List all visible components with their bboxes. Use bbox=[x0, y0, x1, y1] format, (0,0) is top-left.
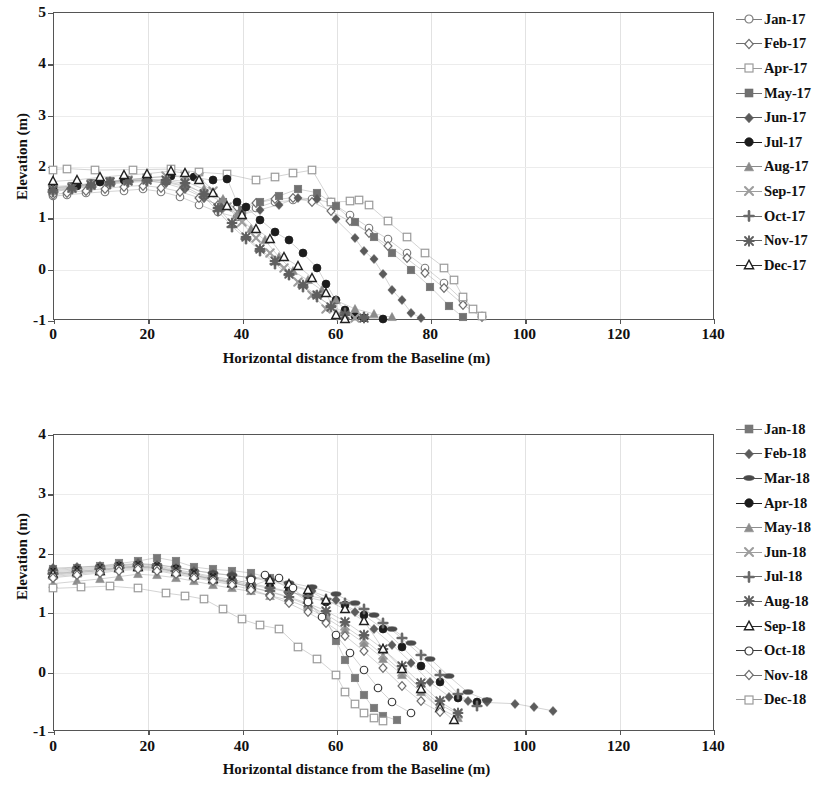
data-point-marker bbox=[302, 606, 314, 618]
data-point-marker bbox=[330, 200, 342, 212]
legend-item-oct-17[interactable]: Oct-17 bbox=[736, 204, 811, 229]
data-point-marker bbox=[387, 697, 399, 709]
legend-item-jan-18[interactable]: Jan-18 bbox=[736, 417, 811, 442]
data-point-marker bbox=[509, 698, 521, 710]
data-point-marker bbox=[71, 570, 83, 582]
legend-item-nov-18[interactable]: Nov-18 bbox=[736, 663, 811, 688]
data-point-marker bbox=[179, 167, 191, 179]
x-axis-tick-label: 0 bbox=[28, 738, 78, 754]
legend-item-label: Dec-18 bbox=[764, 691, 806, 708]
legend-item-label: Jan-17 bbox=[764, 11, 805, 28]
data-point-marker bbox=[321, 288, 333, 300]
data-point-marker bbox=[406, 707, 418, 719]
legend-item-jun-17[interactable]: Jun-17 bbox=[736, 105, 811, 130]
data-point-marker bbox=[368, 231, 380, 243]
x-axis-tick-label: 0 bbox=[28, 326, 78, 342]
legend-item-dec-18[interactable]: Dec-18 bbox=[736, 688, 811, 713]
data-point-marker bbox=[368, 254, 380, 266]
legend-item-jul-18[interactable]: Jul-18 bbox=[736, 565, 811, 590]
legend-marker-glyph bbox=[743, 136, 755, 148]
data-point-marker bbox=[47, 164, 59, 176]
data-point-marker bbox=[132, 583, 144, 595]
legend-marker-glyph bbox=[743, 669, 755, 681]
legend-marker-glyph bbox=[743, 38, 755, 50]
legend-item-jun-18[interactable]: Jun-18 bbox=[736, 540, 811, 565]
legend-item-oct-18[interactable]: Oct-18 bbox=[736, 638, 811, 663]
x-axis-tick-label: 20 bbox=[122, 738, 172, 754]
legend-item-aug-18[interactable]: Aug-18 bbox=[736, 589, 811, 614]
data-point-marker bbox=[401, 253, 413, 265]
data-point-marker bbox=[226, 579, 238, 591]
data-point-marker bbox=[349, 217, 361, 229]
data-point-marker bbox=[94, 567, 106, 579]
data-point-marker bbox=[415, 660, 427, 672]
data-point-marker bbox=[274, 623, 286, 635]
legend-item-dec-17[interactable]: Dec-17 bbox=[736, 253, 811, 278]
legend-item-label: Sep-17 bbox=[764, 183, 805, 200]
legend-marker-filled-triangle-icon bbox=[736, 521, 762, 535]
data-point-marker bbox=[377, 643, 389, 655]
data-point-marker bbox=[358, 665, 370, 677]
data-point-marker bbox=[420, 248, 432, 260]
legend-marker-glyph bbox=[743, 448, 755, 460]
data-point-marker bbox=[250, 175, 262, 187]
legend-item-feb-18[interactable]: Feb-18 bbox=[736, 442, 811, 467]
legend-marker-glyph bbox=[743, 694, 755, 706]
legend-item-jul-17[interactable]: Jul-17 bbox=[736, 130, 811, 155]
data-point-marker bbox=[344, 647, 356, 659]
legend-marker-glyph bbox=[743, 571, 755, 583]
data-point-marker bbox=[377, 268, 389, 280]
legend-item-label: Feb-17 bbox=[764, 35, 806, 52]
legend-marker-glyph bbox=[743, 185, 755, 197]
data-point-marker bbox=[321, 595, 333, 607]
chart-legend: Jan-18Feb-18Mar-18Apr-18May-18Jun-18Jul-… bbox=[736, 417, 811, 712]
data-point-marker bbox=[415, 312, 427, 324]
legend-item-label: Oct-17 bbox=[764, 208, 805, 225]
data-point-marker bbox=[269, 171, 281, 183]
chart-2018: 43210-1020406080100120140Horizontal dist… bbox=[0, 395, 819, 790]
data-point-marker bbox=[217, 603, 229, 615]
legend-marker-glyph bbox=[743, 235, 755, 247]
legend-marker-filled-square-icon bbox=[736, 422, 762, 436]
legend-marker-glyph bbox=[743, 161, 755, 173]
legend-item-may-18[interactable]: May-18 bbox=[736, 515, 811, 540]
x-axis-tick-label: 140 bbox=[688, 738, 738, 754]
legend-item-apr-17[interactable]: Apr-17 bbox=[736, 56, 811, 81]
data-point-marker bbox=[396, 663, 408, 675]
data-point-marker bbox=[278, 252, 290, 264]
legend-item-label: May-17 bbox=[764, 85, 811, 102]
legend-item-label: Aug-18 bbox=[764, 593, 809, 610]
data-point-marker bbox=[457, 291, 469, 303]
legend-item-nov-17[interactable]: Nov-17 bbox=[736, 228, 811, 253]
data-point-marker bbox=[340, 630, 352, 642]
legend-marker-glyph bbox=[743, 13, 755, 25]
data-point-marker bbox=[71, 174, 83, 186]
legend-marker-cross-x-icon bbox=[736, 184, 762, 198]
legend-item-label: Jul-18 bbox=[764, 568, 802, 585]
legend-marker-filled-diamond-icon bbox=[736, 447, 762, 461]
data-point-marker bbox=[264, 590, 276, 602]
legend-marker-filled-circle-icon bbox=[736, 135, 762, 149]
legend-item-feb-17[interactable]: Feb-17 bbox=[736, 32, 811, 57]
x-axis-title: Horizontal distance from the Baseline (m… bbox=[0, 350, 713, 367]
legend-marker-plus-icon bbox=[736, 570, 762, 584]
legend-marker-asterisk-icon bbox=[736, 594, 762, 608]
legend-item-mar-18[interactable]: Mar-18 bbox=[736, 466, 811, 491]
data-point-marker bbox=[434, 669, 446, 681]
legend-item-may-17[interactable]: May-17 bbox=[736, 81, 811, 106]
legend-marker-open-square-icon bbox=[736, 693, 762, 707]
data-point-marker bbox=[142, 168, 154, 180]
legend-marker-glyph bbox=[743, 522, 755, 534]
legend-item-sep-17[interactable]: Sep-17 bbox=[736, 179, 811, 204]
legend-item-sep-18[interactable]: Sep-18 bbox=[736, 614, 811, 639]
legend-item-jan-17[interactable]: Jan-17 bbox=[736, 7, 811, 32]
legend-item-apr-18[interactable]: Apr-18 bbox=[736, 491, 811, 516]
data-point-marker bbox=[424, 281, 436, 293]
data-point-marker bbox=[283, 598, 295, 610]
legend-item-label: Jul-17 bbox=[764, 134, 802, 151]
legend-item-label: Sep-18 bbox=[764, 618, 805, 635]
data-point-marker bbox=[377, 662, 389, 674]
legend-item-aug-17[interactable]: Aug-17 bbox=[736, 155, 811, 180]
data-point-marker bbox=[420, 267, 432, 279]
data-point-marker bbox=[415, 684, 427, 696]
